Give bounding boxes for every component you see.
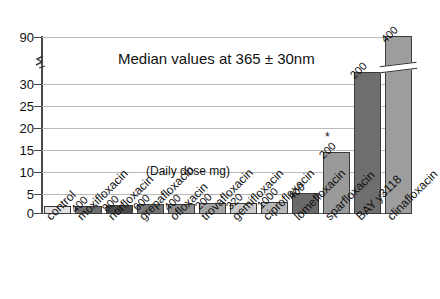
y-tick-label: 30 (4, 78, 34, 91)
y-tick-label: 15 (4, 144, 34, 157)
daily-dose-note: (Daily dose mg) (146, 165, 230, 178)
y-tick-label: 5 (4, 188, 34, 201)
y-tick-label: 25 (4, 100, 34, 113)
y-tick-label: 10 (4, 166, 34, 179)
x-axis-categories: control moxifloxacin norfloxacin grepafl… (0, 214, 416, 299)
significance-marker: * (325, 132, 330, 142)
chart-title: Median values at 365 ± 30nm (118, 51, 315, 67)
y-tick-label: 20 (4, 122, 34, 135)
y-tick-label: 90 (4, 31, 34, 44)
